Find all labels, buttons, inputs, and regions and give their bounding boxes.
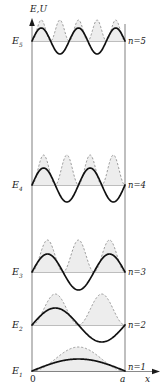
energy-label-e2-sub: 2: [19, 326, 23, 332]
energy-level-n5: [32, 20, 125, 54]
tick-label-a: a: [120, 374, 125, 384]
energy-label-e1: E1: [12, 365, 23, 378]
energy-label-e4-sub: 4: [19, 186, 23, 192]
quantum-label-n3: n=3: [128, 267, 146, 277]
vertical-axis-label: E,U: [30, 4, 47, 14]
energy-level-n1: [32, 347, 125, 371]
energy-label-e2-text: E: [12, 319, 19, 330]
energy-level-n4: [32, 155, 125, 202]
figure-canvas: E,U 0 a x E5 E4 E3 E2 E1 n=5 n=4 n=3 n=2…: [0, 0, 165, 392]
energy-levels-group: [32, 20, 125, 371]
quantum-label-n1: n=1: [128, 362, 146, 372]
energy-label-e1-sub: 1: [19, 372, 23, 378]
probability-fill-n3: [32, 240, 125, 272]
horizontal-axis-label: x: [145, 374, 150, 384]
energy-label-e5: E5: [12, 35, 23, 48]
vertical-axis-arrow: [29, 18, 35, 26]
energy-label-e4: E4: [12, 179, 23, 192]
probability-fill-n2: [32, 294, 125, 325]
probability-fill-n4: [32, 155, 125, 185]
square-well-plot: [0, 0, 165, 392]
energy-label-e5-sub: 5: [19, 42, 23, 48]
quantum-label-n2: n=2: [128, 320, 146, 330]
quantum-label-n5: n=5: [128, 36, 146, 46]
horizontal-axis-arrow: [152, 369, 160, 375]
energy-label-e3-sub: 3: [19, 273, 23, 279]
energy-label-e2: E2: [12, 319, 23, 332]
tick-label-zero: 0: [30, 374, 36, 384]
energy-level-n2: [32, 294, 125, 342]
energy-label-e3-text: E: [12, 266, 19, 277]
energy-label-e4-text: E: [12, 179, 19, 190]
energy-label-e5-text: E: [12, 35, 19, 46]
quantum-label-n4: n=4: [128, 180, 146, 190]
energy-level-n3: [32, 240, 125, 290]
energy-label-e3: E3: [12, 266, 23, 279]
energy-label-e1-text: E: [12, 365, 19, 376]
